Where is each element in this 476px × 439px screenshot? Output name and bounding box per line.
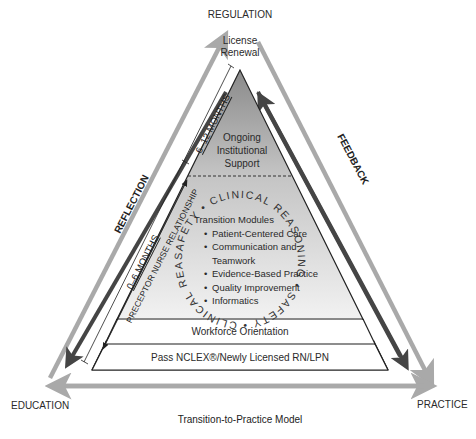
- module-item: Patient-Centered Care: [204, 227, 318, 241]
- module-item: Quality Improvement: [204, 281, 318, 295]
- modules-list: Patient-Centered Care Communication and …: [194, 227, 318, 308]
- modules-heading: Transition Modules: [194, 213, 318, 227]
- transition-modules: Transition Modules Patient-Centered Care…: [194, 213, 318, 308]
- module-item: Evidence-Based Practice: [204, 267, 318, 281]
- corner-education: EDUCATION: [11, 400, 69, 411]
- nclex-label: Pass NCLEX®/Newly Licensed RN/LPN: [151, 352, 329, 363]
- module-item-continued: Teamwork: [204, 254, 318, 268]
- license-renewal-label: License Renewal: [221, 35, 260, 59]
- license-renewal-line1: License: [221, 35, 260, 47]
- module-item: Communication and: [204, 240, 318, 254]
- license-renewal-line2: Renewal: [221, 47, 260, 59]
- corner-regulation: REGULATION: [208, 9, 272, 20]
- corner-practice: PRACTICE: [417, 399, 468, 410]
- support-line2: Institutional: [217, 144, 268, 157]
- transition-to-practice-diagram: SAFETY • CLINICAL REASONING • SAFETY • C…: [0, 0, 476, 439]
- workforce-orientation-label: Workforce Orientation: [191, 326, 288, 337]
- support-line1: Ongoing: [217, 131, 268, 144]
- ongoing-support-label: Ongoing Institutional Support: [217, 131, 268, 170]
- diagram-caption: Transition-to-Practice Model: [178, 414, 303, 425]
- support-line3: Support: [217, 157, 268, 170]
- module-item: Informatics: [204, 294, 318, 308]
